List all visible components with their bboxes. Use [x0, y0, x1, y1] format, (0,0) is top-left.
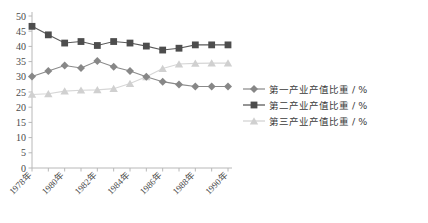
data-point [225, 41, 232, 48]
data-point [175, 80, 183, 88]
legend-item[interactable]: 第二产业产值比重 / % [243, 100, 367, 111]
series-3 [28, 59, 232, 98]
y-axis-tick-label: 40 [16, 41, 26, 52]
data-point [208, 41, 215, 48]
y-axis-tick-label: 10 [16, 132, 26, 143]
x-axis-tick-label: 1984年 [105, 170, 132, 197]
data-point [224, 83, 232, 91]
legend-label: 第一产业产值比重 / % [269, 84, 367, 95]
x-axis-tick-label: 1990年 [203, 170, 230, 197]
y-axis-tick-label: 35 [16, 56, 26, 67]
data-point [61, 40, 68, 47]
data-point [192, 41, 199, 48]
data-point [126, 67, 134, 75]
data-point [158, 65, 166, 72]
data-point [45, 31, 52, 38]
y-axis-tick-label: 5 [21, 147, 26, 158]
data-point [126, 80, 134, 87]
legend-marker-diamond-icon [250, 85, 258, 93]
data-point [159, 47, 166, 54]
data-point [176, 45, 183, 52]
data-point [94, 42, 101, 49]
data-point [78, 38, 85, 45]
data-point [110, 38, 117, 45]
data-point [127, 40, 134, 47]
x-axis-tick-label: 1982年 [72, 170, 99, 197]
legend-item[interactable]: 第一产业产值比重 / % [243, 84, 367, 95]
y-axis-tick-label: 50 [16, 11, 26, 22]
y-axis-tick-label: 45 [16, 26, 26, 37]
series-2 [29, 23, 232, 54]
y-axis-tick-label: 25 [16, 87, 26, 98]
y-axis-tick-label: 30 [16, 71, 26, 82]
data-point [44, 67, 52, 75]
legend-item[interactable]: 第三产业产值比重 / % [243, 116, 367, 127]
x-axis-tick-label: 1978年 [7, 170, 34, 197]
legend-marker-square-icon [251, 102, 258, 109]
legend-label: 第三产业产值比重 / % [269, 116, 367, 127]
y-axis-tick-label: 20 [16, 102, 26, 113]
legend: 第一产业产值比重 / %第二产业产值比重 / %第三产业产值比重 / % [243, 84, 367, 127]
data-point [61, 62, 69, 70]
data-point [77, 64, 85, 72]
x-axis-tick-label: 1986年 [137, 170, 164, 197]
chart-container: 051015202530354045501978年1980年1982年1984年… [0, 0, 428, 223]
data-point [208, 83, 216, 91]
data-point [110, 63, 118, 71]
x-axis-tick-label: 1980年 [39, 170, 66, 197]
legend-label: 第二产业产值比重 / % [269, 100, 367, 111]
x-axis-tick-label: 1988年 [170, 170, 197, 197]
data-point [28, 72, 36, 80]
data-point [93, 57, 101, 65]
data-point [159, 78, 167, 86]
line-chart: 051015202530354045501978年1980年1982年1984年… [0, 0, 428, 223]
data-point [29, 23, 36, 30]
data-point [191, 83, 199, 91]
y-axis-tick-label: 15 [16, 117, 26, 128]
data-point [143, 43, 150, 50]
